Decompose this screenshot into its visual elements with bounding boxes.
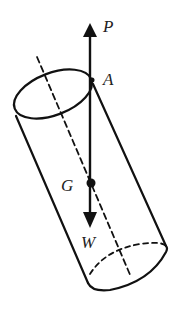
label-w: W bbox=[81, 234, 95, 251]
center-of-gravity-dot bbox=[87, 179, 96, 188]
label-a: A bbox=[103, 71, 113, 88]
label-p: P bbox=[103, 18, 113, 35]
cylinder-left-edge bbox=[16, 116, 88, 283]
label-g: G bbox=[61, 177, 73, 194]
diagram: P A G W bbox=[0, 0, 183, 318]
point-a-dot bbox=[90, 78, 95, 83]
arrow-up-icon bbox=[83, 23, 97, 37]
cylinder-right-edge bbox=[93, 84, 166, 246]
arrow-down-icon bbox=[83, 212, 97, 228]
cylinder-diagram-svg bbox=[0, 0, 183, 318]
